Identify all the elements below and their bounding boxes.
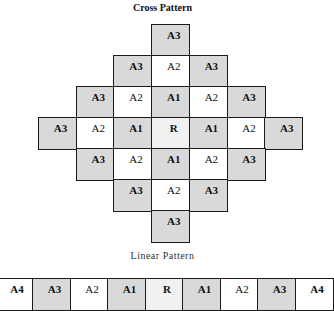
linear-cell-a4: A4 xyxy=(0,278,34,311)
cross-cell-a3: A3 xyxy=(151,24,190,57)
cross-cell-a3: A3 xyxy=(113,179,152,212)
linear-cell-a4: A4 xyxy=(295,278,334,311)
cross-cell-a1: A1 xyxy=(151,86,190,119)
cross-cell-a3: A3 xyxy=(113,55,152,88)
cross-cell-a3: A3 xyxy=(189,179,228,212)
linear-cell-a1: A1 xyxy=(182,278,221,311)
cross-cell-a2: A2 xyxy=(76,117,115,150)
cross-cell-a3: A3 xyxy=(76,86,115,119)
cross-cell-a2: A2 xyxy=(189,148,228,181)
cross-cell-a1: A1 xyxy=(151,148,190,181)
cross-cell-a3: A3 xyxy=(38,117,77,150)
cross-pattern-title: Cross Pattern xyxy=(0,2,325,13)
linear-cell-a3: A3 xyxy=(32,278,71,311)
cross-cell-a2: A2 xyxy=(189,86,228,119)
cross-cell-a3: A3 xyxy=(264,117,303,150)
cross-cell-a3: A3 xyxy=(151,210,190,243)
cross-cell-a1: A1 xyxy=(113,117,152,150)
cross-cell-a3: A3 xyxy=(227,86,266,119)
cross-cell-a3: A3 xyxy=(189,55,228,88)
cross-cell-a2: A2 xyxy=(151,179,190,212)
cross-cell-a2: A2 xyxy=(151,55,190,88)
cross-cell-a2: A2 xyxy=(113,148,152,181)
cross-cell-a2: A2 xyxy=(113,86,152,119)
linear-cell-r: R xyxy=(145,278,184,311)
cross-cell-r: R xyxy=(151,117,190,150)
linear-cell-a2: A2 xyxy=(70,278,109,311)
linear-cell-a3: A3 xyxy=(257,278,296,311)
cross-cell-a1: A1 xyxy=(189,117,228,150)
cross-cell-a3: A3 xyxy=(76,148,115,181)
linear-pattern-title: Linear Pattern xyxy=(0,250,325,261)
cross-cell-a2: A2 xyxy=(227,117,266,150)
linear-cell-a2: A2 xyxy=(220,278,259,311)
linear-cell-a1: A1 xyxy=(107,278,146,311)
cross-cell-a3: A3 xyxy=(227,148,266,181)
